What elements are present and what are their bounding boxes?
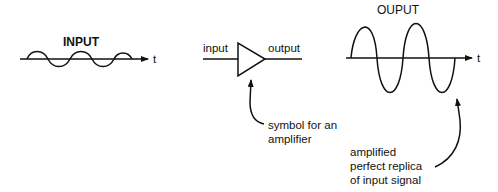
output-title: OUPUT (377, 3, 420, 17)
amplifier-output-label: output (268, 42, 301, 54)
amplifier-annotation-line-1: symbol for an (268, 119, 337, 131)
output-annotation-line-2: perfect replica (350, 160, 423, 172)
amplifier-diagram: INPUT t input output symbol for an ampli… (0, 0, 498, 192)
amplifier-triangle-icon (238, 43, 265, 76)
output-panel: OUPUT t amplified perfect replica of inp… (346, 3, 481, 186)
input-panel: INPUT t (20, 35, 157, 67)
amplifier-panel: input output symbol for an amplifier (203, 42, 337, 145)
output-annotation-line-3: of input signal (350, 174, 421, 186)
output-annotation-line-1: amplified (350, 146, 396, 158)
output-pointer-arrow (435, 99, 460, 167)
amplifier-pointer-arrow (250, 80, 264, 124)
amplifier-annotation-line-2: amplifier (268, 133, 312, 145)
input-title: INPUT (63, 35, 100, 49)
amplifier-input-label: input (203, 42, 229, 54)
output-axis-label: t (477, 52, 481, 64)
input-axis-label: t (153, 53, 157, 65)
